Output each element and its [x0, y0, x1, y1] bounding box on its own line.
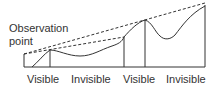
observation-label-line2: point — [9, 35, 68, 48]
segment-label-3: Visible — [123, 74, 155, 85]
observation-label-line1: Observation — [9, 22, 68, 35]
segment-label-4: Invisible — [166, 74, 206, 85]
segment-label-2: Invisible — [71, 74, 111, 85]
segment-label-1: Visible — [27, 74, 59, 85]
observation-point-label: Observation point — [9, 22, 68, 48]
